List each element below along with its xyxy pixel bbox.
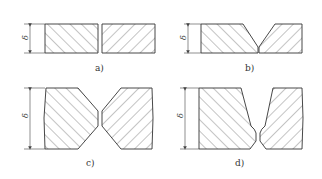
panel-b: δ b)	[179, 24, 302, 73]
right-plate	[260, 88, 303, 149]
left-plate	[201, 24, 258, 53]
panel-d: δ d)	[176, 88, 303, 168]
left-plate	[45, 24, 98, 53]
thickness-symbol: δ	[21, 35, 30, 40]
left-plate	[44, 88, 98, 149]
panel-label: d)	[235, 158, 244, 168]
panel-a: δ a)	[21, 24, 155, 73]
right-plate	[259, 24, 302, 53]
thickness-symbol: δ	[176, 113, 185, 118]
right-plate	[102, 24, 155, 53]
right-plate	[102, 88, 153, 149]
thickness-symbol: δ	[21, 113, 30, 118]
panel-c: δ c)	[21, 88, 153, 168]
panel-label: c)	[86, 158, 95, 168]
panel-label: a)	[95, 63, 104, 73]
weld-groove-diagram: δ a) δ b) δ c) δ d)	[0, 0, 322, 179]
panel-label: b)	[245, 63, 254, 73]
left-plate	[199, 88, 256, 149]
thickness-symbol: δ	[179, 35, 188, 40]
